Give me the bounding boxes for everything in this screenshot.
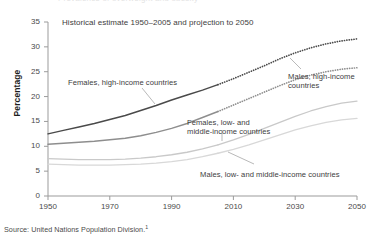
females-low-middle-income-label: Females, low- andmiddle-income countries bbox=[187, 118, 270, 136]
annotation-line: Females, low- and bbox=[187, 118, 270, 127]
y-tick-label: 5 bbox=[18, 166, 40, 175]
source-note: Source: United Nations Population Divisi… bbox=[4, 224, 148, 234]
x-tick-label: 1990 bbox=[155, 202, 189, 211]
y-tick-label: 25 bbox=[18, 67, 40, 76]
y-tick-label: 35 bbox=[18, 17, 40, 26]
females-high-income-label: Females, high-income countries bbox=[68, 78, 177, 87]
annotation-line: Males, high-income bbox=[288, 72, 355, 81]
x-tick-label: 1950 bbox=[31, 202, 65, 211]
y-tick-label: 30 bbox=[18, 42, 40, 51]
annotation-leader-line-1 bbox=[290, 58, 301, 69]
chart-figure: Prevalence of overweight and obesity Per… bbox=[0, 0, 367, 238]
y-tick-label: 10 bbox=[18, 141, 40, 150]
x-tick-label: 2050 bbox=[340, 202, 367, 211]
y-tick-label: 20 bbox=[18, 92, 40, 101]
series-line-historical-2 bbox=[48, 145, 218, 160]
source-text: Source: United Nations Population Divisi… bbox=[4, 225, 145, 234]
source-footnote-marker: 1 bbox=[145, 224, 148, 230]
annotation-leader-line-3 bbox=[228, 152, 254, 164]
annotation-line: Males, low- and middle-income countries bbox=[200, 170, 340, 179]
annotation-line: middle-income countries bbox=[187, 127, 270, 136]
y-tick-label: 15 bbox=[18, 116, 40, 125]
males-high-income-label: Males, high-incomecountries bbox=[288, 72, 355, 90]
x-tick-label: 2010 bbox=[216, 202, 250, 211]
x-tick-label: 1970 bbox=[93, 202, 127, 211]
annotation-line: Females, high-income countries bbox=[68, 78, 177, 87]
annotation-leader-line-0 bbox=[142, 88, 155, 104]
x-tick-label: 2030 bbox=[278, 202, 312, 211]
y-tick-label: 0 bbox=[18, 191, 40, 200]
males-low-middle-income-label: Males, low- and middle-income countries bbox=[200, 170, 340, 179]
annotation-line: countries bbox=[288, 81, 355, 90]
